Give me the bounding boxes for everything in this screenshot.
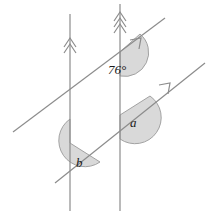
lower-transversal-arrow-icon [159, 83, 170, 94]
geometry-diagram: 76° a b [0, 0, 211, 218]
angle-76-label: 76° [108, 62, 126, 77]
angle-a-label: a [130, 115, 137, 130]
geometry-canvas: 76° a b [0, 0, 211, 218]
angle-b-label: b [76, 155, 83, 170]
